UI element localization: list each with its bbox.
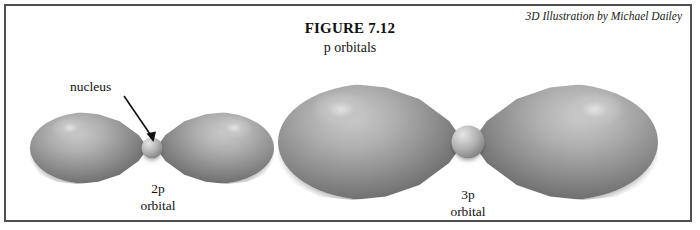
nucleus-sphere	[452, 126, 485, 159]
lobe-surface	[278, 84, 464, 200]
lobe-surface	[156, 112, 274, 184]
figure-subtitle: p orbitals	[0, 40, 700, 56]
orbital-3p-lobe-left	[278, 84, 464, 200]
orbital-3p-lobe-right	[472, 84, 658, 200]
figure-panel: FIGURE 7.12 p orbitals 3D Illustration b…	[0, 0, 700, 230]
orbital-3p-caption-line2: orbital	[420, 203, 516, 220]
orbital-2p-caption: 2p orbital	[118, 180, 198, 214]
nucleus-label: nucleus	[70, 79, 111, 95]
figure-title: FIGURE 7.12	[0, 20, 700, 37]
lobe-surface	[472, 84, 658, 200]
illustration-credit: 3D Illustration by Michael Dailey	[526, 10, 683, 22]
orbital-3p-caption-line1: 3p	[420, 186, 516, 203]
orbital-2p-caption-line2: orbital	[118, 197, 198, 214]
orbital-2p-lobe-right	[156, 112, 274, 184]
orbital-3p-caption: 3p orbital	[420, 186, 516, 220]
callout-arrow-icon	[120, 92, 166, 148]
orbital-2p-caption-line1: 2p	[118, 180, 198, 197]
